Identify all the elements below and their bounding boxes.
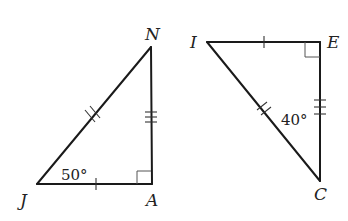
- vertex-label-c: C: [314, 184, 327, 204]
- triangle-jan: J A N 50°: [17, 24, 161, 210]
- right-angle-marker-e: [305, 42, 320, 57]
- right-angle-marker-a: [137, 171, 151, 184]
- angle-label-c: 40°: [281, 111, 308, 129]
- vertex-label-a: A: [144, 190, 158, 210]
- vertex-label-i: I: [189, 32, 197, 52]
- vertex-label-n: N: [144, 24, 161, 44]
- vertex-label-j: J: [17, 190, 28, 210]
- congruent-triangles-diagram: J A N 50° I E C 40°: [0, 0, 348, 221]
- segment-an: [151, 47, 152, 184]
- vertex-label-e: E: [326, 32, 340, 52]
- segment-jn: [37, 47, 151, 184]
- tick-marks-jn: [85, 106, 100, 122]
- angle-label-j: 50°: [61, 166, 88, 184]
- tick-marks-ic: [257, 102, 271, 115]
- triangle-iec: I E C 40°: [189, 32, 340, 204]
